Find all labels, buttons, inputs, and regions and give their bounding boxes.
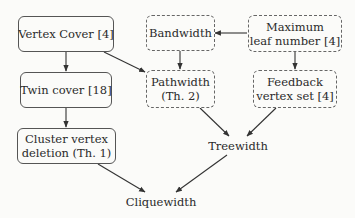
node-cliquewidth: Cliquewidth <box>118 194 204 210</box>
node-label-line-1: Cluster vertex <box>25 132 108 146</box>
node-label: Treewidth <box>208 139 268 153</box>
node-twin-cover: Twin cover [18] <box>20 72 112 108</box>
node-label: Twin cover [18] <box>20 83 111 97</box>
node-label-line-2: (Th. 2) <box>161 89 200 103</box>
node-cluster-vertex-deletion: Cluster vertex deletion (Th. 1) <box>17 128 116 164</box>
node-label-line-1: Feedback <box>267 75 323 89</box>
edge-treewidth-cliquewidth <box>176 155 227 192</box>
node-label: Vertex Cover [4] <box>18 27 114 41</box>
node-bandwidth: Bandwidth <box>146 15 215 51</box>
edge-pathwidth-treewidth <box>200 108 229 136</box>
node-label-line-2: deletion (Th. 1) <box>22 146 112 160</box>
node-vertex-cover: Vertex Cover [4] <box>18 16 114 52</box>
node-feedback-vertex-set: Feedback vertex set [4] <box>253 70 337 108</box>
node-pathwidth: Pathwidth (Th. 2) <box>146 70 215 108</box>
node-label: Bandwidth <box>149 26 212 40</box>
node-label-line-2: vertex set [4] <box>256 89 334 103</box>
node-treewidth: Treewidth <box>198 138 278 154</box>
node-label: Cliquewidth <box>126 195 197 209</box>
edge-feedback-treewidth <box>247 108 276 136</box>
node-label-line-2: leaf number [4] <box>250 34 341 48</box>
node-label-line-1: Maximum <box>266 20 324 34</box>
node-label-line-1: Pathwidth <box>151 75 210 89</box>
node-maximum-leaf-number: Maximum leaf number [4] <box>248 15 342 52</box>
edge-vertexcover-pathwidth <box>104 52 145 72</box>
edge-cluster-cliquewidth <box>98 164 145 192</box>
